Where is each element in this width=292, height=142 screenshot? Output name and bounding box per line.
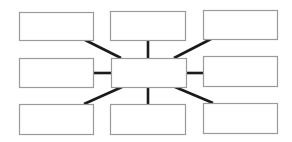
node-top-center[interactable]: [111, 12, 186, 41]
spider-diagram: [0, 0, 292, 142]
node-bottom-right[interactable]: [204, 104, 278, 134]
node-middle-left-rect: [20, 59, 94, 88]
connector-bottom-left: [84, 87, 122, 104]
connector-bottom-right: [175, 87, 213, 103]
node-bottom-center[interactable]: [111, 105, 186, 135]
center-node[interactable]: [112, 59, 187, 88]
node-middle-right-rect: [204, 57, 278, 87]
connector-top-right: [174, 39, 211, 58]
node-bottom-left[interactable]: [20, 105, 94, 135]
node-top-center-rect: [111, 12, 186, 41]
connector-top-left: [85, 40, 121, 58]
node-middle-right[interactable]: [204, 57, 278, 87]
center-node-group: [112, 59, 187, 88]
node-top-right-rect: [204, 11, 278, 40]
center-node-rect: [112, 59, 187, 88]
node-bottom-right-rect: [204, 104, 278, 134]
node-top-right[interactable]: [204, 11, 278, 40]
node-middle-left[interactable]: [20, 59, 94, 88]
node-bottom-left-rect: [20, 105, 94, 135]
node-bottom-center-rect: [111, 105, 186, 135]
node-top-left[interactable]: [20, 13, 94, 41]
node-top-left-rect: [20, 13, 94, 41]
